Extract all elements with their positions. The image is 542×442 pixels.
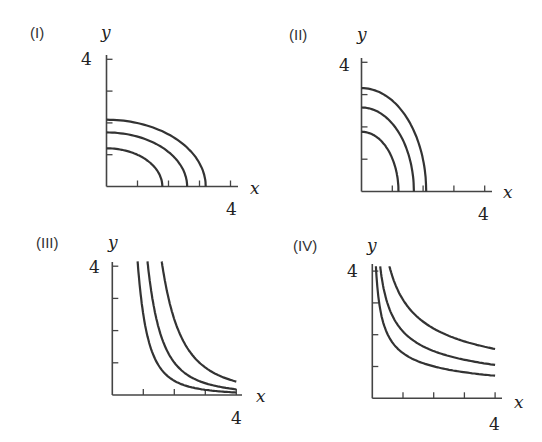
plot-area	[372, 264, 502, 398]
curve-3	[107, 120, 206, 187]
y-tick-label-4: 4	[81, 49, 92, 69]
curve-3	[362, 88, 427, 191]
curve-1	[362, 132, 399, 192]
panel-iii: (III) y 4 x 4	[36, 232, 266, 428]
panel-ii: (II) y 4 x 4	[289, 24, 513, 224]
x-axis-label: x	[503, 182, 513, 202]
x-tick-label-4: 4	[489, 414, 500, 434]
panel-label: (II)	[289, 26, 307, 43]
panel-i: (I) y 4 x 4	[30, 22, 260, 219]
x-tick-label-4: 4	[226, 199, 237, 219]
y-tick-label-4: 4	[89, 257, 100, 277]
y-axis-label: y	[366, 235, 377, 255]
plot-area	[112, 261, 242, 395]
panel-label: (I)	[30, 24, 44, 41]
curve-3	[162, 261, 237, 381]
y-tick-label-4: 4	[339, 55, 350, 75]
plot-area	[107, 55, 239, 187]
panel-label: (III)	[36, 234, 59, 251]
curve-3	[389, 266, 495, 349]
y-axis-label: y	[356, 24, 367, 44]
panel-iv: (IV) y 4 x 4	[293, 235, 524, 434]
x-tick-label-4: 4	[478, 204, 489, 224]
y-axis-label: y	[100, 22, 111, 42]
x-tick-label-4: 4	[231, 408, 242, 428]
plot-area	[362, 58, 493, 192]
curve-1	[138, 261, 237, 392]
curve-1	[107, 148, 163, 186]
x-axis-label: x	[250, 178, 260, 198]
panel-label: (IV)	[293, 237, 317, 254]
y-axis-label: y	[107, 232, 118, 252]
x-axis-label: x	[256, 386, 266, 406]
figure-2x2-graphs: (I) y 4 x 4 (II) y 4 x 4 (III) y 4 x 4 (…	[0, 0, 542, 442]
x-axis-label: x	[514, 392, 524, 412]
curve-2	[380, 266, 495, 365]
y-tick-label-4: 4	[347, 261, 358, 281]
